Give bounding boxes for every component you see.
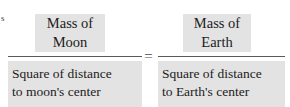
left-fraction-bar [8, 56, 142, 57]
equals-sign: = [143, 47, 154, 65]
left-fraction-denominator: Square of distance to moon's center [8, 61, 142, 107]
left-fraction: Mass of Moon Square of distance to moon'… [8, 0, 142, 107]
right-fraction-numerator: Mass of Earth [183, 14, 251, 52]
right-fraction: Mass of Earth Square of distance to Eart… [158, 0, 285, 107]
right-fraction-bar [158, 56, 285, 57]
gravitation-equation-figure: s Mass of Moon Square of distance to moo… [0, 0, 290, 107]
margin-clipped-text: s [1, 13, 5, 23]
left-fraction-numerator: Mass of Moon [35, 14, 105, 52]
right-fraction-denominator: Square of distance to Earth's center [158, 61, 285, 107]
